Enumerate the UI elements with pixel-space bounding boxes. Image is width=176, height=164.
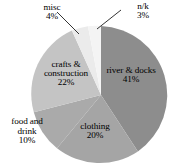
pie-label-river-and-docks: river & docks 41% <box>96 66 166 85</box>
pie-label-crafts-and-construction: crafts & construction 22% <box>28 60 104 88</box>
pie-label-nk-percent: 3% <box>122 11 164 20</box>
pie-label-food-percent: 10% <box>0 136 57 146</box>
pie-chart: river & docks 41% clothing 20% crafts & … <box>0 0 176 164</box>
pie-label-river-and-docks-percent: 41% <box>96 75 166 84</box>
pie-label-misc: misc 4% <box>30 3 74 22</box>
pie-label-food-line2: drink <box>18 126 37 136</box>
pie-label-nk: n/k 3% <box>122 2 164 21</box>
pie-label-food-and-drink: food and drink 10% <box>0 117 57 146</box>
pie-label-crafts-percent: 22% <box>28 78 104 87</box>
leader-line-nk <box>97 10 121 29</box>
pie-label-clothing-percent: 20% <box>62 131 128 140</box>
pie-label-clothing: clothing 20% <box>62 122 128 141</box>
pie-label-misc-percent: 4% <box>30 12 74 21</box>
pie-label-food-line1: food and <box>11 116 43 126</box>
